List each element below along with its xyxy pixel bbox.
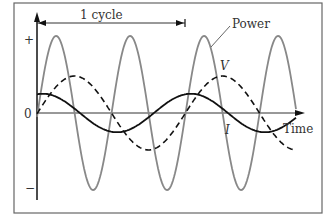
zero-tick-label: 0 bbox=[24, 107, 32, 121]
plus-tick-label: + bbox=[24, 33, 34, 47]
i-label: I bbox=[224, 123, 230, 137]
cycle-right-arrow-icon bbox=[176, 20, 184, 26]
x-axis-arrow-icon bbox=[295, 110, 305, 116]
cycle-label: 1 cycle bbox=[80, 8, 123, 22]
power-label: Power bbox=[232, 17, 270, 31]
minus-tick-label: − bbox=[25, 181, 35, 195]
y-axis-arrow-icon bbox=[34, 12, 40, 22]
power-leader-line bbox=[211, 26, 230, 47]
v-label: V bbox=[220, 59, 230, 73]
time-label: Time bbox=[283, 122, 313, 136]
figure-frame bbox=[14, 3, 322, 213]
ac-power-diagram: 1 cycle Power V I Time + 0 − bbox=[0, 0, 328, 223]
